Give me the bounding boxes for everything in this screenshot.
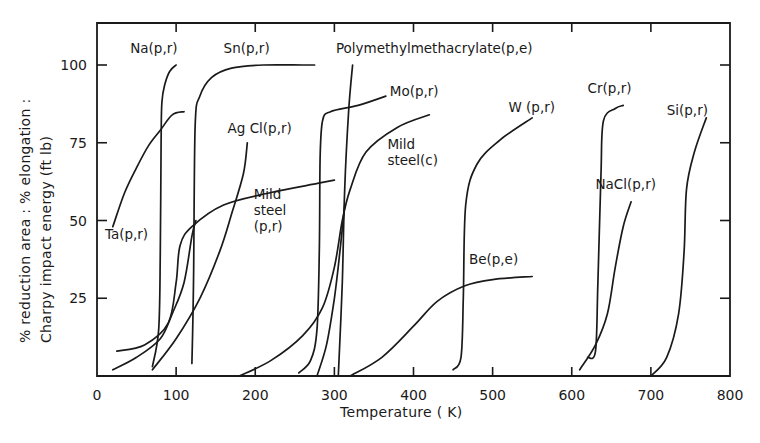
x-tick-label: 700 [638, 387, 665, 403]
curve-agcl-p-r [152, 143, 247, 370]
x-tick-label: 200 [242, 387, 269, 403]
y-axis-title-line1: % reduction area : % elongation : [17, 99, 33, 343]
x-tick-label: 100 [163, 387, 190, 403]
series-label-sn-p-r: Sn(p,r) [224, 40, 270, 56]
plot-frame [97, 23, 730, 376]
y-tick-label: 50 [69, 213, 87, 229]
series-label-ta-p-r: Ta(p,r) [104, 226, 148, 242]
series-label-mild-steel-p-r: Mild [254, 186, 282, 202]
series-label-be-p-e: Be(p,e) [469, 251, 518, 267]
data-curves [113, 65, 707, 376]
series-label-mild-steel-c: Mild [387, 136, 415, 152]
x-tick-label: 300 [321, 387, 348, 403]
x-tick-label: 400 [400, 387, 427, 403]
series-label-mo-p-r: Mo(p,r) [390, 83, 439, 99]
series-label-si-p-r: Si(p,r) [667, 102, 708, 118]
curve-w-p-r [453, 118, 532, 370]
series-label-nacl-p-r: NaCl(p,r) [595, 176, 656, 192]
x-tick-label: 800 [717, 387, 744, 403]
curve-be-p-e [350, 277, 532, 377]
curve-polymethylmethacrylate-p-e [338, 65, 352, 376]
axis-frame [97, 23, 730, 376]
series-label-polymethylmethacrylate-p-e: Polymethylmethacrylate(p,e) [336, 40, 533, 56]
x-axis-ticks: 0100200300400500600700800 [93, 23, 744, 403]
curve-ta-p-r [113, 112, 184, 227]
x-axis-title: Temperature ( K) [339, 404, 463, 420]
y-tick-label: 25 [69, 290, 87, 306]
series-label-w-p-r: W (p,r) [508, 99, 555, 115]
curve-mild-steel-p-r-low [113, 221, 196, 370]
curve-mild-steel-p-r [117, 180, 335, 351]
y-tick-label: 100 [60, 57, 87, 73]
y-axis-title-line2: Charpy impact energy (ft lb) [38, 136, 54, 343]
series-label-mild-steel-p-r: steel [254, 202, 287, 218]
chart: 0100200300400500600700800 255075100 Na(p… [0, 0, 760, 443]
curve-na-p-r [152, 65, 176, 367]
series-label-mild-steel-c: steel(c) [387, 152, 438, 168]
series-label-agcl-p-r: Ag Cl(p,r) [228, 120, 292, 136]
series-label-cr-p-r: Cr(p,r) [588, 80, 632, 96]
x-tick-label: 500 [479, 387, 506, 403]
series-label-mild-steel-p-r: (p,r) [254, 218, 283, 234]
x-tick-label: 0 [93, 387, 102, 403]
curve-si-p-r [651, 118, 706, 376]
x-tick-label: 600 [558, 387, 585, 403]
curve-nacl-p-r [580, 202, 631, 370]
y-tick-label: 75 [69, 135, 87, 151]
series-label-na-p-r: Na(p,r) [130, 40, 177, 56]
